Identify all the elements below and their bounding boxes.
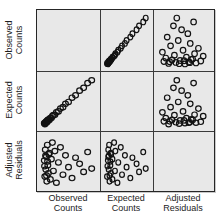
data-point (50, 168, 56, 173)
data-point (81, 169, 87, 174)
data-point (172, 52, 178, 58)
data-point (171, 23, 177, 29)
data-point (174, 78, 180, 83)
data-point (196, 46, 202, 52)
data-point (143, 166, 148, 171)
col-label-adjusted-residuals: Adjusted Residuals (153, 193, 213, 214)
data-point (191, 19, 197, 25)
scatter-points-layer (101, 132, 153, 191)
data-point (180, 47, 186, 53)
row-label-adjusted-residuals: Adjusted Residuals (0, 130, 29, 191)
data-point (172, 112, 178, 117)
data-point (137, 169, 142, 174)
data-point (112, 140, 117, 145)
data-point (77, 161, 83, 166)
data-point (52, 148, 58, 153)
panel-expected-vs-observed (37, 72, 100, 131)
data-point (73, 155, 79, 160)
data-point (115, 180, 120, 185)
data-point (175, 99, 181, 104)
data-point (175, 38, 181, 44)
panel-residuals-vs-expected (101, 132, 153, 191)
data-point (54, 180, 60, 185)
data-point (120, 172, 125, 177)
scatter-points-layer (154, 72, 214, 131)
data-point (179, 88, 185, 93)
data-point (66, 164, 72, 169)
data-point (124, 164, 129, 169)
scatterplot-matrix-figure: Observed Counts Expected Counts Adjusted… (0, 0, 220, 222)
data-point (187, 41, 193, 47)
data-point (49, 140, 55, 145)
data-point (187, 101, 193, 106)
data-point (168, 43, 174, 49)
data-point (185, 31, 191, 37)
data-point (168, 104, 174, 109)
row-label-expected-counts: Expected Counts (0, 70, 29, 131)
data-point (128, 175, 133, 180)
data-point (185, 93, 191, 98)
data-point (113, 148, 118, 153)
data-point (123, 153, 128, 158)
data-point (56, 160, 62, 165)
data-point (160, 110, 166, 115)
panel-expected-vs-residuals (154, 72, 214, 131)
data-point (179, 27, 185, 33)
data-point (69, 175, 75, 180)
panel-diagonal-expected (101, 72, 153, 131)
data-point (118, 145, 123, 150)
panel-observed-vs-expected (101, 10, 153, 71)
scatter-points-layer (154, 10, 214, 71)
col-label-expected-counts: Expected Counts (96, 193, 156, 214)
panel-grid (36, 9, 215, 192)
data-point (58, 145, 64, 150)
data-point (113, 168, 118, 173)
scatter-points-layer (37, 132, 100, 191)
data-point (174, 15, 180, 21)
panel-observed-vs-residuals (154, 10, 214, 71)
data-point (192, 112, 198, 117)
panel-residuals-vs-observed (37, 132, 100, 191)
data-point (171, 85, 177, 90)
data-point (191, 80, 197, 85)
data-point (89, 166, 95, 171)
data-point (85, 149, 91, 154)
data-point (192, 51, 198, 57)
data-point (164, 34, 170, 40)
data-point (141, 149, 146, 154)
data-point (60, 172, 66, 177)
data-point (196, 106, 202, 111)
panel-diagonal-observed (37, 10, 100, 71)
scatter-points-layer (101, 10, 153, 71)
data-point (116, 160, 121, 165)
data-point (160, 49, 166, 55)
data-point (200, 113, 206, 118)
panel-diagonal-residuals (154, 132, 214, 191)
data-point (180, 109, 186, 114)
data-point (130, 155, 135, 160)
data-point (200, 53, 206, 59)
col-label-observed-counts: Observed Counts (38, 193, 98, 214)
data-point (63, 153, 69, 158)
scatter-points-layer (37, 72, 100, 131)
row-label-observed-counts: Observed Counts (0, 10, 29, 71)
data-point (164, 95, 170, 100)
data-point (134, 161, 139, 166)
